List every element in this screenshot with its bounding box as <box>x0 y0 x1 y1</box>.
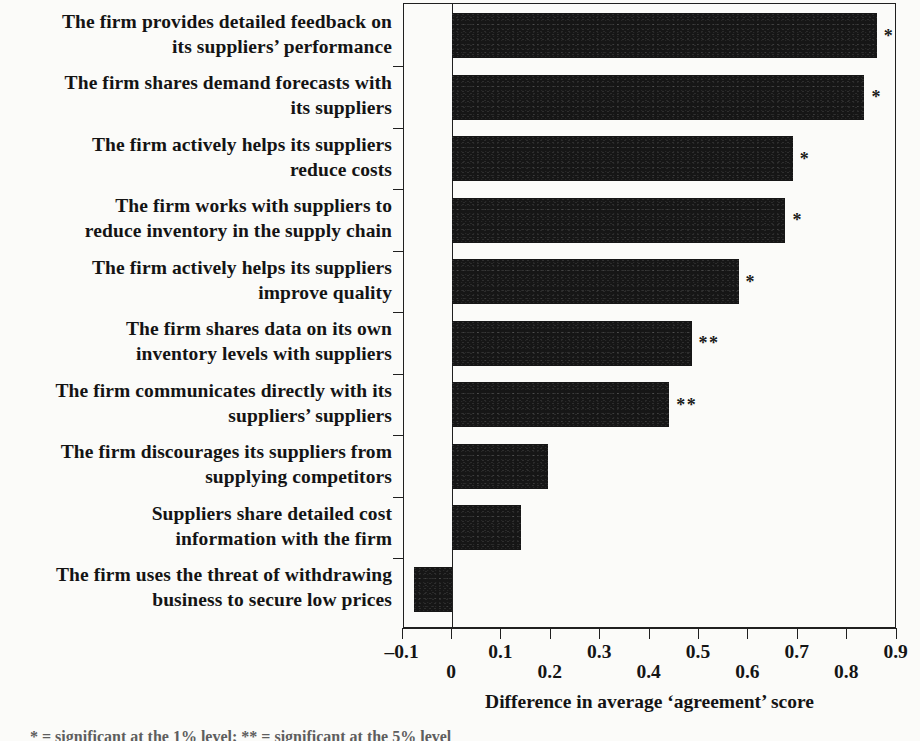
x-axis-tick <box>649 628 650 639</box>
x-axis-tick-label: 0.5 <box>686 641 710 663</box>
x-axis-tick <box>698 628 699 639</box>
bar <box>452 444 548 489</box>
category-label: Suppliers share detailed cost informatio… <box>0 501 392 551</box>
y-axis-tick <box>393 435 404 436</box>
bar <box>452 321 692 366</box>
significance-marker: * <box>800 150 811 168</box>
x-axis-tick <box>500 628 501 639</box>
category-label: The firm uses the threat of withdrawing … <box>0 562 392 612</box>
bar <box>452 136 793 181</box>
x-axis-tick-label: 0.1 <box>488 641 512 663</box>
x-axis-tick-label: 0.2 <box>538 661 562 683</box>
significance-marker: * <box>884 27 895 45</box>
x-axis-tick <box>747 628 748 639</box>
x-axis-tick <box>896 628 897 639</box>
category-label: The firm works with suppliers to reduce … <box>0 193 392 243</box>
y-axis-tick <box>393 128 404 129</box>
bar <box>452 198 785 243</box>
significance-marker: * <box>871 88 882 106</box>
bar <box>452 505 521 550</box>
x-axis-title: Difference in average ‘agreement’ score <box>403 690 896 714</box>
bar <box>452 75 864 120</box>
bar <box>452 259 739 304</box>
category-label: The firm actively helps its suppliers re… <box>0 132 392 182</box>
chart-footnote: * = significant at the 1% level; ** = si… <box>30 727 451 741</box>
y-axis-tick <box>393 558 404 559</box>
x-axis-tick <box>402 628 403 639</box>
bar <box>452 13 877 58</box>
x-axis-tick <box>451 628 452 639</box>
y-axis-tick <box>393 374 404 375</box>
x-axis-tick-label: 0 <box>446 661 456 683</box>
significance-marker: * <box>746 273 757 291</box>
bar-chart-figure: The firm provides detailed feedback on i… <box>0 0 920 741</box>
significance-marker: * <box>792 211 803 229</box>
x-axis-tick-label: 0.6 <box>735 661 759 683</box>
significance-marker: ** <box>676 396 697 414</box>
category-label: The firm shares demand forecasts with it… <box>0 70 392 120</box>
bar <box>452 382 669 427</box>
x-axis-tick <box>797 628 798 639</box>
y-axis-tick <box>393 497 404 498</box>
category-label: The firm communicates directly with its … <box>0 378 392 428</box>
significance-marker: ** <box>699 334 720 352</box>
x-axis: –0.100.10.20.30.40.50.60.70.80.9 <box>403 628 896 629</box>
bar <box>414 567 452 612</box>
x-axis-tick-label: 0.4 <box>636 661 660 683</box>
category-label: The firm shares data on its own inventor… <box>0 316 392 366</box>
y-axis-tick <box>393 66 404 67</box>
category-label: The firm discourages its suppliers from … <box>0 439 392 489</box>
plot-area: ********* <box>403 3 896 628</box>
x-axis-tick-label: 0.8 <box>834 661 858 683</box>
x-axis-tick-label: 0.9 <box>883 641 907 663</box>
y-axis-tick <box>393 312 404 313</box>
y-axis-tick <box>393 251 404 252</box>
category-label: The firm actively helps its suppliers im… <box>0 255 392 305</box>
y-axis-tick <box>393 189 404 190</box>
x-axis-tick <box>846 628 847 639</box>
x-axis-tick-label: 0.7 <box>785 641 809 663</box>
x-axis-tick-label: –0.1 <box>385 641 419 663</box>
x-axis-tick <box>550 628 551 639</box>
category-label: The firm provides detailed feedback on i… <box>0 9 392 59</box>
x-axis-tick <box>599 628 600 639</box>
x-axis-tick-label: 0.3 <box>587 641 611 663</box>
category-label-column: The firm provides detailed feedback on i… <box>0 3 392 628</box>
